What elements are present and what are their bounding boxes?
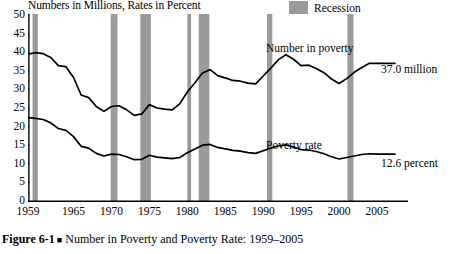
recession-band [33,14,38,202]
x-axis-tick-label: 1975 [138,206,161,218]
y-axis-tick-label: 25 [14,102,26,114]
caption-figure-number: Figure 6-1 [2,232,55,246]
y-axis-tick-labels: 05101520253035404550 [0,14,25,202]
y-axis-tick-label: 15 [14,139,26,151]
y-axis-tick-label: 50 [14,9,26,21]
caption-bullet-icon: ■ [57,235,62,245]
x-axis-tick-label: 1970 [100,206,123,218]
x-axis-tick-label: 2000 [328,206,351,218]
end-value-poverty-rate: 12.6 percent [381,157,438,169]
x-axis-tick-label: 1990 [252,206,275,218]
recession-legend-label: Recession [314,2,361,14]
legend: Recession [289,1,361,14]
x-axis-tick-label: 1995 [290,206,313,218]
y-axis-tick-label: 35 [14,65,26,77]
end-value-number-in-poverty: 37.0 million [381,63,437,75]
recession-band [199,14,210,202]
y-axis-tick-label: 45 [14,28,26,40]
y-axis-tick-label: 10 [14,158,26,170]
series-label-number-in-poverty: Number in poverty [266,42,354,54]
y-axis-tick-label: 30 [14,84,26,96]
axis-title: Numbers in Millions, Rates in Percent [28,0,201,11]
series-label-poverty-rate: Poverty rate [266,139,322,151]
recession-band [187,14,191,202]
recession-band [111,14,118,202]
leader-lines [377,63,395,154]
x-axis-tick-label: 1959 [17,206,40,218]
figure-container: Numbers in Millions, Rates in Percent Re… [0,0,452,254]
y-axis-tick-label: 40 [14,46,26,58]
y-axis-tick-label: 5 [19,177,25,189]
y-axis-tick-label: 20 [14,121,26,133]
x-axis-tick-label: 2005 [366,206,389,218]
x-axis-tick-label: 1980 [176,206,199,218]
x-axis-tick-label: 1985 [214,206,237,218]
figure-caption: Figure 6-1■Number in Poverty and Poverty… [2,232,303,247]
caption-text: Number in Poverty and Poverty Rate: 1959… [65,232,303,246]
recession-legend-swatch [289,1,308,14]
x-axis-tick-label: 1965 [62,206,85,218]
x-axis-tick-labels: 1959196519701975198019851990199520002005 [0,206,452,222]
